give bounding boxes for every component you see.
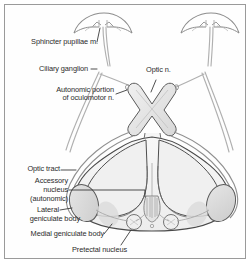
label-optic-tract: Optic tract [4,165,60,174]
label-autonomic-portion-line2: of oculomotor n. [4,94,114,103]
figure-panel: Sphincter pupillae m. Ciliary ganglion A… [0,0,251,267]
label-lateral-geniculate-line2: geniculate body [4,215,80,224]
label-sphincter-pupillae: Sphincter pupillae m. [4,38,98,47]
label-medial-geniculate: Medial geniculate body [4,230,104,239]
label-pretectal-nucleus: Pretectal nucleus [72,246,127,255]
optic-chiasm [126,83,179,136]
label-optic-n: Optic n. [146,66,171,75]
label-ciliary-ganglion: Ciliary ganglion [4,65,88,74]
label-accessory-nucleus-line3: (autonomic) [4,195,68,204]
